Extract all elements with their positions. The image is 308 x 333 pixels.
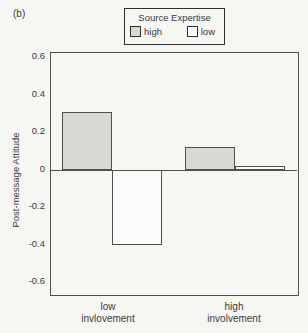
x-category-label: highinvolvement [174,301,294,324]
y-tick-label: 0.6 [8,51,45,61]
zero-baseline [50,170,297,171]
y-tick-label: 0.4 [8,89,45,99]
figure-panel-label: (b) [13,8,25,19]
y-tick-label: -0.2 [8,201,45,211]
legend-title: Source Expertise [125,12,224,23]
bar-high-expertise-low-involvement [62,112,112,170]
bar-high-expertise-high-involvement [185,147,235,169]
legend-swatch-low [187,26,198,37]
legend-items: highlow [125,23,224,37]
legend-label: low [201,26,215,37]
legend-item-low: low [187,26,215,37]
bar-low-expertise-low-involvement [112,170,162,245]
figure: (b) Source Expertise highlow Post-messag… [0,0,308,333]
legend-swatch-high [130,26,141,37]
legend-item-high: high [130,26,162,37]
y-tick-label: -0.4 [8,239,45,249]
x-category-label-line: involvement [174,313,294,325]
y-tick-label: 0.2 [8,126,45,136]
y-tick-label: 0 [8,164,45,174]
legend: Source Expertise highlow [124,8,225,45]
x-category-label-line: low [48,301,168,313]
legend-label: high [144,26,162,37]
plot-area [50,52,299,296]
y-tick-label: -0.6 [8,276,45,286]
bar-low-expertise-high-involvement [235,166,285,170]
x-category-label-line: high [174,301,294,313]
x-category-label: lowinvlovement [48,301,168,324]
y-axis-title: Post-message Attitude [10,132,21,227]
x-category-label-line: invlovement [48,313,168,325]
